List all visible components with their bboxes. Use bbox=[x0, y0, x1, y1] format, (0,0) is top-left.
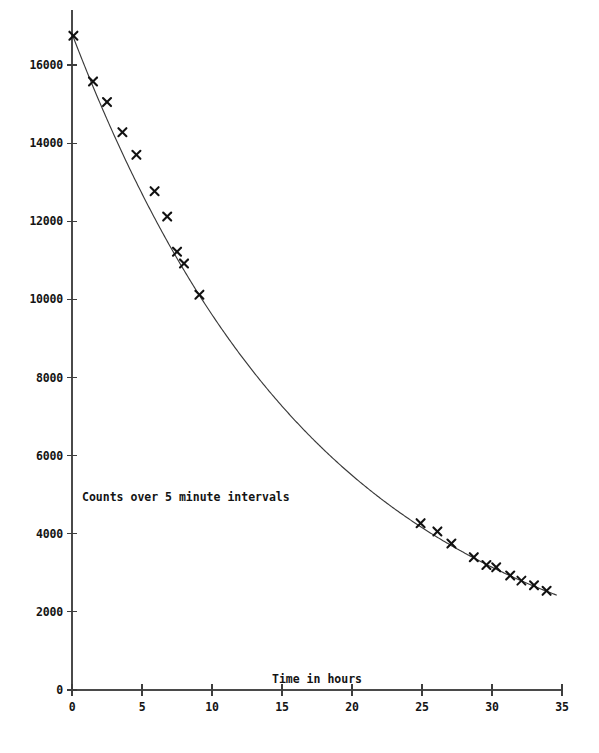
series-annotation-label: Counts over 5 minute intervals bbox=[82, 490, 290, 504]
y-tick-label: 14000 bbox=[29, 136, 63, 150]
data-point-marker bbox=[470, 553, 478, 561]
y-tick-label: 16000 bbox=[29, 58, 63, 72]
x-axis-title: Time in hours bbox=[272, 672, 362, 686]
data-point-marker bbox=[543, 587, 551, 595]
data-point-marker bbox=[118, 128, 126, 136]
x-tick-label: 30 bbox=[485, 700, 499, 714]
data-point-marker bbox=[195, 291, 203, 299]
data-point-marker bbox=[103, 98, 111, 106]
data-point-marker bbox=[180, 259, 188, 267]
x-tick-label: 5 bbox=[139, 700, 146, 714]
data-point-marker bbox=[173, 248, 181, 256]
axes-group bbox=[72, 10, 562, 690]
y-tick-label: 0 bbox=[56, 683, 63, 697]
x-tick-label: 0 bbox=[69, 700, 76, 714]
data-point-markers bbox=[69, 32, 550, 595]
y-tick-label: 12000 bbox=[29, 214, 63, 228]
decay-curve-plot: 0200040006000800010000120001400016000 05… bbox=[0, 0, 599, 753]
x-tick-label: 35 bbox=[555, 700, 569, 714]
chart-figure: 0200040006000800010000120001400016000 05… bbox=[0, 0, 599, 753]
data-point-marker bbox=[433, 527, 441, 535]
y-axis-ticks: 0200040006000800010000120001400016000 bbox=[29, 58, 77, 697]
exponential-fit-curve bbox=[72, 34, 556, 595]
x-tick-label: 20 bbox=[345, 700, 359, 714]
x-axis-ticks: 05101520253035 bbox=[69, 684, 569, 714]
data-point-marker bbox=[517, 577, 525, 585]
data-point-marker bbox=[482, 561, 490, 569]
y-tick-label: 2000 bbox=[36, 605, 63, 619]
y-tick-label: 8000 bbox=[36, 371, 63, 385]
data-point-marker bbox=[151, 187, 159, 195]
data-point-marker bbox=[132, 151, 140, 159]
y-tick-label: 6000 bbox=[36, 449, 63, 463]
x-tick-label: 10 bbox=[205, 700, 219, 714]
data-point-marker bbox=[163, 213, 171, 221]
data-point-marker bbox=[417, 519, 425, 527]
x-tick-label: 25 bbox=[415, 700, 429, 714]
y-tick-label: 10000 bbox=[29, 292, 63, 306]
y-tick-label: 4000 bbox=[36, 527, 63, 541]
data-point-marker bbox=[89, 77, 97, 85]
x-tick-label: 15 bbox=[275, 700, 289, 714]
data-point-marker bbox=[506, 572, 514, 580]
